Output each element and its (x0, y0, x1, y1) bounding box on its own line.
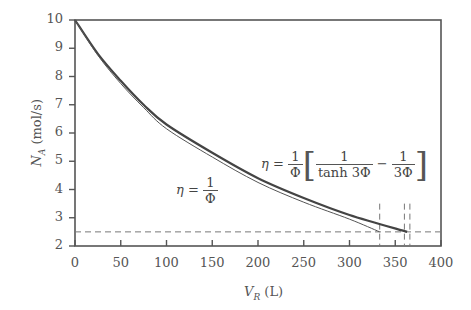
plot-frame (75, 20, 441, 246)
x-tick-label: 200 (238, 255, 278, 270)
fraction: 1tanh 3Φ (316, 149, 373, 180)
y-tick-label: 8 (43, 68, 63, 83)
annotation-eta-simple: η = 1Φ (176, 175, 218, 206)
x-tick-label: 0 (55, 255, 95, 270)
x-tick-label: 50 (101, 255, 141, 270)
y-axis-label: NA (mol/s) (29, 83, 47, 183)
x-tick-label: 300 (330, 255, 370, 270)
x-tick-label: 100 (147, 255, 187, 270)
y-tick-label: 9 (43, 39, 63, 54)
series-eta-simple (75, 20, 380, 232)
annotation-eta-tanh: η = 1Φ[1tanh 3Φ − 13Φ] (261, 147, 428, 181)
x-tick-label: 250 (284, 255, 324, 270)
fraction: 13Φ (392, 149, 415, 180)
y-tick-label: 3 (43, 209, 63, 224)
fraction: 1Φ (203, 175, 218, 206)
y-tick-label: 10 (43, 11, 63, 26)
x-tick-label: 350 (375, 255, 415, 270)
x-tick-label: 400 (421, 255, 461, 270)
x-tick-label: 150 (192, 255, 232, 270)
x-axis-label: VR (L) (244, 284, 283, 302)
series-eta-tanh (75, 20, 407, 232)
y-tick-label: 2 (43, 237, 63, 252)
fraction: 1Φ (288, 149, 303, 180)
